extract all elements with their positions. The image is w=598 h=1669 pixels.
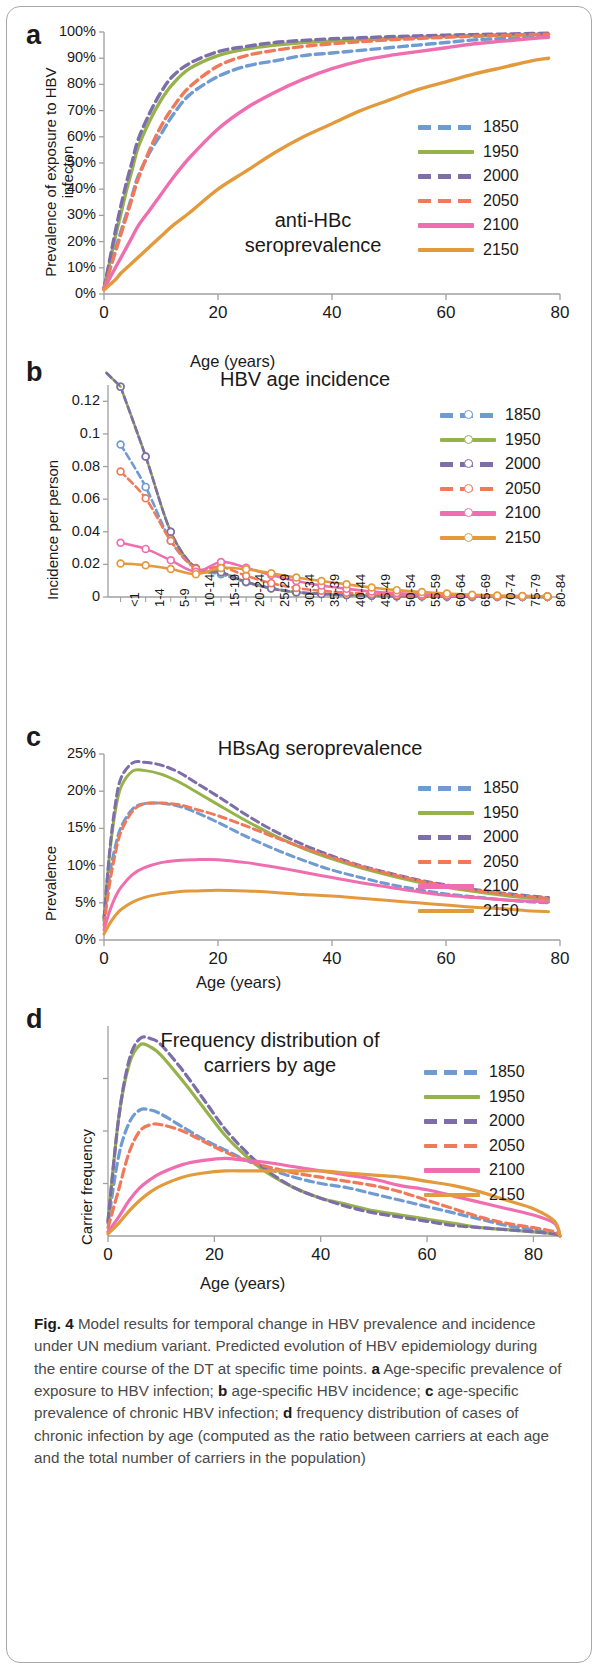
x-tick-label: 20-24 [252, 574, 267, 607]
legend-label-1850: 1850 [483, 779, 519, 797]
legend-label-1850: 1850 [489, 1063, 525, 1081]
x-tick-label: 80-84 [553, 574, 568, 607]
legend-swatch-2000 [440, 457, 496, 471]
series-marker-2100 [117, 539, 124, 546]
panel-b: b Incidence per person 00.020.040.060.08… [0, 355, 598, 700]
legend-item-1950: 1950 [418, 801, 519, 826]
series-marker-2150 [218, 565, 225, 572]
y-tick-label: 10% [30, 857, 96, 873]
x-tick-label: 20 [193, 303, 243, 323]
legend-label-2100: 2100 [483, 216, 519, 234]
legend-item-2100: 2100 [418, 213, 519, 238]
series-marker-2150 [192, 571, 199, 578]
y-tick-label: 0.1 [36, 425, 100, 441]
legend-label-1950: 1950 [505, 431, 541, 449]
legend-label-1950: 1950 [483, 143, 519, 161]
legend-swatch-1850 [418, 120, 474, 134]
x-tick-label: 40 [307, 303, 357, 323]
x-tick-label: 40-44 [353, 574, 368, 607]
y-tick-label: 0.08 [36, 458, 100, 474]
legend-label-2050: 2050 [489, 1137, 525, 1155]
caption-label: Fig. 4 [34, 1315, 74, 1332]
legend-label-2100: 2100 [489, 1161, 525, 1179]
x-tick-label: 65-69 [478, 574, 493, 607]
y-tick-label: 5% [30, 894, 96, 910]
series-marker-2150 [318, 578, 325, 585]
legend-label-2150: 2150 [505, 529, 541, 547]
legend-label-2050: 2050 [483, 192, 519, 210]
x-tick-label: 60 [421, 303, 471, 323]
legend-item-2150: 2150 [418, 238, 519, 263]
legend-swatch-1950 [440, 433, 496, 447]
series-marker-2150 [243, 566, 250, 573]
x-tick-label: 0 [83, 1245, 133, 1265]
x-tick-label: 80 [508, 1245, 558, 1265]
legend-marker-1850 [464, 410, 473, 419]
legend-item-2000: 2000 [418, 825, 519, 850]
series-marker-2050 [268, 580, 275, 587]
x-tick-label: 1-4 [152, 588, 167, 607]
series-marker-2050 [117, 468, 124, 475]
legend-label-1850: 1850 [505, 406, 541, 424]
legend-swatch-2150 [440, 531, 496, 545]
panel-c: c Prevalence 0%5%10%15%20%25%020406080 H… [0, 728, 598, 1003]
x-tick-label: 60-64 [453, 574, 468, 607]
legend-swatch-2100 [440, 506, 496, 520]
panel-b-title: HBV age incidence [180, 367, 430, 392]
legend-swatch-2000 [424, 1114, 480, 1128]
legend-item-1850: 1850 [440, 403, 541, 428]
y-tick-label: 0.02 [36, 555, 100, 571]
x-tick-label: 40 [296, 1245, 346, 1265]
legend-label-2150: 2150 [483, 241, 519, 259]
legend-swatch-2150 [418, 904, 474, 918]
x-tick-label: 20 [193, 949, 243, 969]
panel-d-title-line1: Frequency distribution of [145, 1028, 395, 1053]
y-tick-label: 0% [30, 285, 96, 301]
legend-swatch-1850 [424, 1065, 480, 1079]
legend-label-2100: 2100 [505, 504, 541, 522]
series-marker-2150 [142, 562, 149, 569]
panel-a: a Prevalence of exposure to HBV infecton… [0, 0, 598, 340]
x-tick-label: 5-9 [177, 588, 192, 607]
caption-b-tag: b [218, 1382, 227, 1399]
caption-d-tag: d [283, 1404, 292, 1421]
panel-a-title: anti-HBc seroprevalence [218, 208, 408, 258]
legend-item-2050: 2050 [418, 189, 519, 214]
legend-label-2000: 2000 [505, 455, 541, 473]
series-marker-2150 [418, 589, 425, 596]
legend-label-1850: 1850 [483, 118, 519, 136]
y-tick-label: 50% [30, 154, 96, 170]
x-tick-label: 60 [402, 1245, 452, 1265]
caption-b-text: age-specific HBV incidence; [227, 1382, 425, 1399]
legend-marker-2100 [464, 508, 473, 517]
x-tick-label: 10-14 [202, 574, 217, 607]
legend-swatch-1850 [440, 408, 496, 422]
legend-swatch-2000 [418, 830, 474, 844]
legend-swatch-1850 [418, 781, 474, 795]
legend-swatch-2100 [418, 218, 474, 232]
x-tick-label: 80 [535, 303, 585, 323]
panel-c-x-axis-title: Age (years) [196, 973, 281, 992]
panel-d-title-line2: carriers by age [145, 1053, 395, 1078]
series-marker-2100 [167, 557, 174, 564]
x-tick-label: 50-54 [403, 574, 418, 607]
legend-item-2150: 2150 [424, 1183, 525, 1208]
y-tick-label: 0.12 [36, 392, 100, 408]
x-tick-label: 55-59 [428, 574, 443, 607]
y-tick-label: 15% [30, 819, 96, 835]
y-tick-label: 80% [30, 75, 96, 91]
legend-swatch-1950 [418, 806, 474, 820]
legend-item-2050: 2050 [440, 477, 541, 502]
legend-swatch-2000 [418, 169, 474, 183]
legend-swatch-1950 [418, 145, 474, 159]
x-tick-label: 0 [79, 303, 129, 323]
series-marker-1850 [117, 441, 124, 448]
legend-item-2000: 2000 [440, 452, 541, 477]
legend-item-2050: 2050 [424, 1134, 525, 1159]
y-tick-label: 70% [30, 102, 96, 118]
panel-a-title-line1: anti-HBc [218, 208, 408, 233]
caption-a-tag: a [371, 1360, 379, 1377]
y-tick-label: 100% [30, 23, 96, 39]
x-tick-label: 30-34 [302, 574, 317, 607]
legend-swatch-2050 [424, 1139, 480, 1153]
